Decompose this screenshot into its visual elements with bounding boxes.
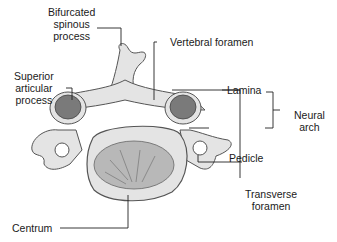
left-articular-facet	[55, 95, 81, 119]
right-transverse-foramen	[193, 141, 207, 155]
right-articular-facet	[170, 95, 196, 119]
label-centrum: Centrum	[12, 222, 52, 234]
label-neural-arch: Neural arch	[294, 109, 325, 133]
label-superior-articular-process: Superior articular process	[14, 70, 54, 106]
left-transverse-foramen	[55, 143, 69, 157]
label-lamina: Lamina	[227, 84, 261, 96]
label-vertebral-foramen: Vertebral foramen	[170, 36, 253, 48]
centrum-texture	[94, 141, 174, 189]
label-pedicle: Pedicle	[229, 152, 263, 164]
label-bifurcated-spinous-process: Bifurcated spinous process	[48, 6, 95, 42]
label-transverse-foramen: Transverse foramen	[245, 188, 297, 212]
